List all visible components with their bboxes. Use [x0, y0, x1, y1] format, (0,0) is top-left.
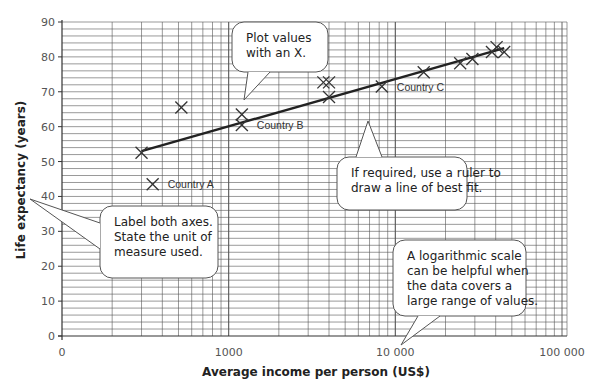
x-tick-label: 100 000	[539, 346, 585, 359]
x-marker-icon	[454, 57, 466, 69]
callout-text: Plot values	[246, 31, 311, 45]
callout-text: A logarithmic scale	[407, 249, 522, 263]
callout-text: draw a line of best fit.	[351, 181, 482, 195]
callout-text: If required, use a ruler to	[351, 166, 501, 180]
callout-plot: Plot valueswith an X.	[232, 22, 328, 100]
x-marker-icon	[498, 46, 510, 58]
callout-text: can be helpful when	[407, 264, 529, 278]
point-label: Country C	[397, 81, 445, 93]
x-tick-label: 1000	[215, 346, 243, 359]
y-tick-label: 20	[41, 260, 55, 273]
y-tick-label: 90	[41, 16, 55, 29]
callout-text: large range of values.	[407, 294, 538, 308]
x-marker-icon	[175, 101, 187, 113]
x-tick-label: 10 000	[376, 346, 415, 359]
y-tick-label: 80	[41, 51, 55, 64]
callout-text: the data covers a	[407, 279, 512, 293]
x-tick-label: 0	[59, 346, 66, 359]
life-expectancy-chart: 01020304050607080900100010 000100 000 Co…	[0, 0, 600, 384]
y-tick-label: 30	[41, 225, 55, 238]
x-axis-title: Average income per person (US$)	[202, 365, 430, 379]
y-tick-label: 10	[41, 295, 55, 308]
x-marker-icon	[236, 108, 248, 120]
point-label: Country B	[257, 119, 304, 131]
callouts: Plot valueswith an X.If required, use a …	[30, 22, 538, 345]
callout-text: with an X.	[246, 46, 306, 60]
point-label: Country A	[168, 178, 214, 190]
y-axis-title: Life expectancy (years)	[14, 101, 28, 260]
y-tick-label: 40	[41, 190, 55, 203]
y-tick-label: 60	[41, 121, 55, 134]
y-tick-label: 70	[41, 86, 55, 99]
x-marker-icon	[317, 76, 329, 88]
callout-text: Label both axes.	[114, 215, 213, 229]
callout-text: measure used.	[114, 245, 203, 259]
y-tick-label: 50	[41, 156, 55, 169]
x-marker-icon	[147, 178, 159, 190]
callout-text: State the unit of	[114, 230, 212, 244]
y-tick-label: 0	[48, 330, 55, 343]
